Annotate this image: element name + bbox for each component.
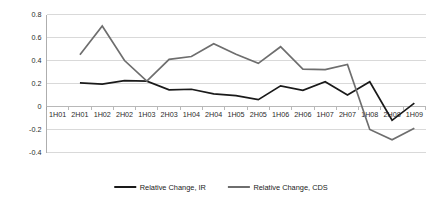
x-axis-tick-labels: 1H012H011H022H021H032H031H042H041H052H05… [49, 110, 423, 119]
chart-legend: Relative Change, IRRelative Change, CDS [114, 183, 328, 192]
y-tick-label: -0.2 [29, 125, 41, 134]
x-tick-label: 2H07 [339, 110, 356, 119]
x-tick-label: 1H03 [138, 110, 155, 119]
line-chart: 0.80.60.40.20-0.2-0.4 1H012H011H022H021H… [0, 0, 442, 202]
x-tick-label: 1H05 [227, 110, 244, 119]
data-series [80, 26, 414, 140]
x-tick-label: 1H07 [317, 110, 334, 119]
x-tick-label: 2H05 [250, 110, 267, 119]
legend-label: Relative Change, CDS [253, 183, 327, 192]
x-tick-label: 2H01 [71, 110, 88, 119]
y-tick-label: 0.4 [32, 56, 42, 65]
y-axis-tick-labels: 0.80.60.40.20-0.2-0.4 [29, 10, 41, 157]
y-tick-label: 0 [38, 102, 42, 111]
x-tick-label: 1H06 [272, 110, 289, 119]
y-tick-label: -0.4 [29, 148, 41, 157]
y-tick-label: 0.6 [32, 33, 42, 42]
x-tick-label: 1H09 [406, 110, 423, 119]
series-line-cds [80, 26, 414, 140]
y-tick-label: 0.2 [32, 79, 42, 88]
y-tick-label: 0.8 [32, 10, 42, 19]
chart-container: 0.80.60.40.20-0.2-0.4 1H012H011H022H021H… [0, 0, 442, 202]
x-tick-label: 2H04 [205, 110, 222, 119]
x-tick-label: 1H02 [94, 110, 111, 119]
x-tick-label: 2H03 [161, 110, 178, 119]
x-tick-label: 2H02 [116, 110, 133, 119]
x-tick-label: 1H01 [49, 110, 66, 119]
x-tick-label: 1H04 [183, 110, 200, 119]
x-tick-label: 2H06 [294, 110, 311, 119]
legend-label: Relative Change, IR [140, 183, 206, 192]
